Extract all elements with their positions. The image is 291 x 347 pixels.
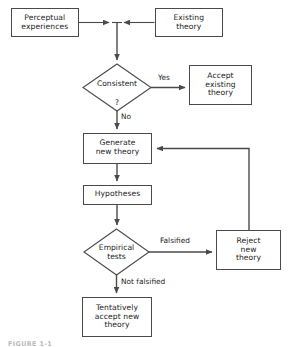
node-perceptual-experiences: Perceptual experiences <box>11 8 79 37</box>
node-accept-existing-theory: Accept existing theory <box>189 65 252 105</box>
node-hypotheses-label: Hypotheses <box>93 190 142 199</box>
node-existing-theory-label: Existing theory <box>171 14 206 32</box>
edge-label-yes: Yes <box>158 74 170 81</box>
node-perceptual-experiences-label: Perceptual experiences <box>19 14 70 32</box>
figure-caption: FIGURE 1-1 <box>8 340 52 347</box>
node-reject-new-theory-label: Reject new theory <box>234 237 263 264</box>
flowchart-connectors <box>0 0 291 347</box>
edge-label-not-falsified: Not falsified <box>121 278 165 285</box>
node-reject-new-theory: Reject new theory <box>216 230 281 270</box>
shape-empirical-diamond <box>84 229 149 275</box>
edge-label-falsified: Falsified <box>160 237 190 244</box>
node-tentatively-accept-new-theory-label: Tentatively accept new theory <box>93 304 141 331</box>
node-accept-existing-theory-label: Accept existing theory <box>203 72 237 99</box>
node-hypotheses: Hypotheses <box>83 185 152 205</box>
node-generate-new-theory-label: Generate new theory <box>94 139 142 157</box>
node-generate-new-theory: Generate new theory <box>83 133 152 164</box>
node-existing-theory: Existing theory <box>155 8 223 37</box>
edge-reject-feedback-loop <box>157 149 249 231</box>
shape-consistent-diamond <box>83 64 151 111</box>
edge-label-no: No <box>121 113 131 120</box>
flowchart-figure: Perceptual experiences Existing theory A… <box>0 0 291 347</box>
node-tentatively-accept-new-theory: Tentatively accept new theory <box>82 297 152 337</box>
